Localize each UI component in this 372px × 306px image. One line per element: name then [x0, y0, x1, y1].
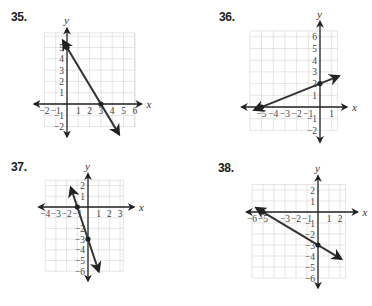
- intercept-point: [98, 101, 103, 106]
- y-axis-label: y: [316, 8, 322, 20]
- y-tick-label: 5: [59, 43, 64, 53]
- y-tick-label: 5: [312, 44, 317, 54]
- y-axis-label: y: [63, 14, 69, 26]
- x-tick-label: 1: [329, 109, 334, 119]
- intercept-point: [317, 81, 322, 86]
- x-axis-label: x: [351, 101, 357, 113]
- y-tick-label: −5: [75, 256, 85, 266]
- y-tick-label: −5: [305, 263, 315, 273]
- graph-38: xy−6−5−3−2−11221−1−2−3−4−5−6: [247, 162, 368, 288]
- x-tick-label: −2: [62, 209, 72, 219]
- intercept-point: [75, 204, 80, 209]
- x-tick-label: −4: [268, 109, 278, 119]
- y-tick-label: 1: [310, 197, 315, 207]
- y-tick-label: 4: [312, 56, 317, 66]
- x-tick-label: 2: [107, 209, 112, 219]
- graphs-canvas: xy−2−112345654321−1−2xy−5−4−3−2−11654321…: [0, 0, 372, 306]
- x-tick-label: −5: [258, 214, 268, 224]
- x-tick-label: −2: [292, 109, 302, 119]
- y-tick-label: −1: [307, 114, 317, 124]
- intercept-point: [315, 242, 320, 247]
- y-tick-label: −4: [305, 252, 315, 262]
- x-tick-label: 2: [338, 214, 343, 224]
- x-axis-label: x: [138, 201, 144, 213]
- y-tick-label: −2: [54, 122, 64, 132]
- x-tick-label: −5: [256, 109, 266, 119]
- x-axis-label: x: [146, 98, 152, 110]
- y-tick-label: 4: [59, 54, 64, 64]
- x-tick-label: 1: [96, 209, 101, 219]
- intercept-point: [259, 104, 264, 109]
- x-tick-label: −6: [247, 214, 257, 224]
- y-tick-label: 1: [312, 91, 317, 101]
- x-tick-label: −3: [51, 209, 61, 219]
- y-tick-label: 1: [59, 88, 64, 98]
- intercept-point: [85, 237, 90, 242]
- y-tick-label: 6: [312, 32, 317, 42]
- y-tick-label: 1: [80, 192, 85, 202]
- graph-35: xy−2−112345654321−1−2: [34, 14, 151, 136]
- y-tick-label: −2: [307, 126, 317, 136]
- y-tick-label: 2: [80, 181, 85, 191]
- x-tick-label: −3: [280, 109, 290, 119]
- x-axis-label: x: [362, 206, 368, 218]
- y-tick-label: −6: [305, 274, 315, 284]
- x-tick-label: 3: [118, 209, 123, 219]
- plotted-line: [63, 41, 119, 134]
- y-tick-label: −1: [305, 219, 315, 229]
- graph-36: xy−5−4−3−2−11654321−1−2: [242, 8, 357, 143]
- x-tick-label: 1: [76, 106, 81, 116]
- y-tick-label: −4: [75, 245, 85, 255]
- y-axis-label: y: [314, 162, 320, 174]
- x-tick-label: 6: [132, 106, 137, 116]
- intercept-point: [64, 45, 69, 50]
- intercept-point: [260, 209, 265, 214]
- y-tick-label: −1: [54, 111, 64, 121]
- y-tick-label: 3: [312, 67, 317, 77]
- graph-37: xy−4−3−2−112321−2−3−4−5−6: [39, 160, 144, 281]
- x-tick-label: 2: [87, 106, 92, 116]
- y-tick-label: −6: [75, 267, 85, 277]
- y-tick-label: 2: [310, 186, 315, 196]
- y-axis-label: y: [84, 160, 90, 172]
- x-tick-label: −2: [39, 106, 49, 116]
- grid: [252, 185, 346, 279]
- y-tick-label: −3: [75, 235, 85, 245]
- x-tick-label: 4: [110, 106, 115, 116]
- x-tick-label: −4: [40, 209, 50, 219]
- x-tick-label: 5: [121, 106, 126, 116]
- y-tick-label: 3: [59, 66, 64, 76]
- x-tick-label: −2: [291, 214, 301, 224]
- y-tick-label: 2: [59, 77, 64, 87]
- x-tick-label: 1: [327, 214, 332, 224]
